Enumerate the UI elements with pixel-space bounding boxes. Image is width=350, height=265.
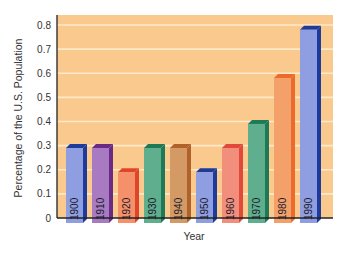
bar-label: 1970	[251, 197, 262, 220]
bar-side	[239, 144, 243, 223]
bar-side	[109, 144, 113, 223]
bar-label: 1920	[121, 197, 132, 220]
bar-1960: 1960	[222, 144, 243, 223]
bar-1990: 1990	[300, 26, 321, 223]
bar-label: 1900	[69, 197, 80, 220]
y-tick-label: 0.8	[37, 20, 51, 31]
bar-label: 1990	[303, 197, 314, 220]
bar-front	[300, 30, 317, 223]
bar-1940: 1940	[170, 144, 191, 223]
bar-side	[161, 144, 165, 223]
bar-1900: 1900	[66, 144, 87, 223]
bar-side	[291, 74, 295, 223]
x-axis-title: Year	[183, 230, 205, 242]
bar-side	[213, 168, 217, 223]
y-axis-title: Percentage of the U.S. Population	[12, 38, 24, 197]
y-tick-label: 0.5	[37, 92, 51, 103]
bar-side	[265, 120, 269, 223]
bar-label: 1930	[147, 197, 158, 220]
y-tick-labels: 00.10.20.30.40.50.60.70.8	[37, 20, 51, 224]
y-tick-label: 0.1	[37, 188, 51, 199]
bar-label: 1950	[199, 197, 210, 220]
bar-label: 1940	[173, 197, 184, 220]
bar-1930: 1930	[144, 144, 165, 223]
bar-chart: 1900191019201930194019501960197019801990…	[0, 0, 350, 265]
y-tick-label: 0.2	[37, 164, 51, 175]
bar-side	[317, 26, 321, 223]
y-tick-label: 0.3	[37, 140, 51, 151]
bar-label: 1980	[277, 197, 288, 220]
bar-1970: 1970	[248, 120, 269, 223]
bar-label: 1910	[95, 197, 106, 220]
y-tick-label: 0.4	[37, 116, 51, 127]
bar-1920: 1920	[118, 168, 139, 223]
bar-side	[83, 144, 87, 223]
bar-label: 1960	[225, 197, 236, 220]
bar-side	[187, 144, 191, 223]
y-tick-label: 0.7	[37, 44, 51, 55]
bar-1950: 1950	[196, 168, 217, 223]
y-tick-label: 0.6	[37, 68, 51, 79]
bar-1910: 1910	[92, 144, 113, 223]
bar-1980: 1980	[274, 74, 295, 223]
bar-side	[135, 168, 139, 223]
y-tick-label: 0	[45, 213, 51, 224]
